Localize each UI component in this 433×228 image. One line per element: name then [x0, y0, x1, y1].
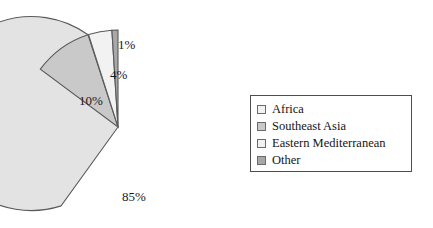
pie-chart: 1% 4% 10% 85%: [21, 30, 215, 224]
legend-swatch-eastern-mediterranean: [257, 139, 266, 148]
pie-label-other: 1%: [118, 38, 135, 51]
legend-item-other: Other: [257, 152, 411, 169]
legend-label-other: Other: [272, 154, 300, 167]
legend-swatch-southeast-asia: [257, 122, 266, 131]
legend-swatch-africa: [257, 105, 266, 114]
legend-label-eastern-mediterranean: Eastern Mediterranean: [272, 137, 385, 150]
legend-item-southeast-asia: Southeast Asia: [257, 118, 411, 135]
pie-chart-svg: [21, 30, 215, 224]
legend-swatch-other: [257, 156, 266, 165]
legend-item-eastern-mediterranean: Eastern Mediterranean: [257, 135, 411, 152]
legend-item-africa: Africa: [257, 101, 411, 118]
pie-label-southeast-asia: 10%: [79, 94, 103, 107]
chart-legend: Africa Southeast Asia Eastern Mediterran…: [250, 95, 412, 172]
chart-page: 1% 4% 10% 85% Africa Southeast Asia East…: [0, 0, 433, 228]
legend-label-africa: Africa: [272, 103, 304, 116]
pie-label-africa: 85%: [122, 190, 146, 203]
pie-label-eastern-mediterranean: 4%: [110, 68, 127, 81]
legend-label-southeast-asia: Southeast Asia: [272, 120, 346, 133]
